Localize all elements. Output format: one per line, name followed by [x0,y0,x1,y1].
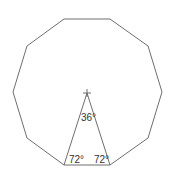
apex-angle-label: 36° [81,112,96,123]
diagram-canvas: 36° 72° 72° [0,0,175,176]
decagon-diagram: 36° 72° 72° [0,0,175,176]
base-right-angle-label: 72° [94,154,109,165]
base-left-angle-label: 72° [69,154,84,165]
